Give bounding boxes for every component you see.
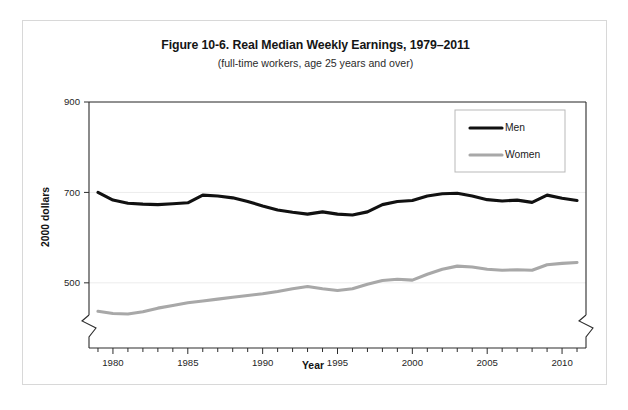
x-tick-label-1985: 1985 (177, 357, 198, 368)
y-axis-title: 2000 dollars (40, 187, 51, 247)
series-line-men (98, 192, 577, 215)
series-line-women (98, 262, 577, 314)
x-axis-ticks: 1980198519901995200020052010 (98, 348, 577, 368)
y-tick-label-900: 900 (64, 96, 80, 107)
y-axis-right-line (579, 102, 593, 348)
legend-label-men: Men (505, 122, 525, 133)
legend-label-women: Women (505, 149, 541, 160)
x-tick-label-1990: 1990 (252, 357, 273, 368)
figure-container: Figure 10-6. Real Median Weekly Earnings… (22, 20, 607, 385)
chart-legend: MenWomen (455, 110, 565, 172)
y-tick-label-500: 500 (64, 277, 80, 288)
y-tick-label-700: 700 (64, 187, 80, 198)
legend-box (455, 110, 565, 172)
x-tick-label-2000: 2000 (402, 357, 423, 368)
x-tick-label-2005: 2005 (477, 357, 498, 368)
x-tick-label-1995: 1995 (327, 357, 348, 368)
line-chart-plot: 500700900 1980198519901995200020052010 2… (23, 21, 608, 386)
x-tick-label-1980: 1980 (102, 357, 123, 368)
x-tick-label-2010: 2010 (551, 357, 572, 368)
x-axis-title: Year (302, 360, 324, 371)
y-axis-ticks: 500700900 (64, 96, 89, 288)
data-series-group (98, 192, 577, 314)
y-axis-line (82, 102, 96, 348)
